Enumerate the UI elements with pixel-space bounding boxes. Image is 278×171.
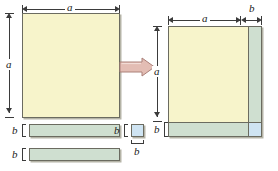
- dim-tick-left-b-cap: [164, 122, 165, 137]
- dim-tick-rect1-bottom: [22, 136, 26, 137]
- arrowhead-down: [6, 108, 12, 113]
- dim-tick-left-a-top: [153, 26, 162, 27]
- dim-label-left-a-right: a: [152, 66, 162, 77]
- square-b-by-b: [131, 124, 144, 137]
- dim-label-top-b-right: b: [249, 3, 255, 14]
- dim-tick-rect1-top: [22, 124, 26, 125]
- region-ab-bottom: [168, 122, 249, 137]
- dim-label-rect2-b: b: [12, 149, 18, 160]
- dim-label-top-a-right: a: [200, 13, 210, 24]
- dim-tick-rect2-top: [22, 148, 26, 149]
- figure-canvas: a a b b b b: [0, 0, 278, 171]
- square-a-by-a: [22, 13, 120, 118]
- dim-tick-b-end: [261, 16, 262, 25]
- dim-tick-small-bottom: [124, 136, 128, 137]
- dim-tick-small-top: [124, 124, 128, 125]
- dim-label-left-b-right: b: [154, 124, 160, 135]
- dim-label-small-bottom-b: b: [134, 146, 140, 157]
- arrowhead-left: [241, 17, 246, 23]
- dim-tick-a-start: [168, 16, 169, 25]
- rect-a-by-b-2: [29, 148, 120, 161]
- dim-tick-bottom: [5, 117, 14, 118]
- dim-tick-rect2-bottom: [22, 160, 26, 161]
- dim-tick-left-a-bottom: [153, 121, 162, 122]
- dim-label-top-a-left: a: [65, 2, 75, 13]
- dim-tick-top: [5, 13, 14, 14]
- dim-label-small-left-b: b: [114, 125, 120, 136]
- dim-tick-small-br: [143, 140, 144, 144]
- dim-label-left-a: a: [4, 59, 14, 70]
- dim-tick-small-bl: [131, 140, 132, 144]
- region-ab-right: [248, 26, 262, 123]
- arrowhead-down: [154, 112, 160, 117]
- region-a-squared: [168, 26, 249, 123]
- right-arrow-icon: [119, 57, 156, 77]
- dim-label-rect1-b: b: [12, 125, 18, 136]
- region-b-squared: [248, 122, 262, 137]
- rect-a-by-b-1: [29, 124, 120, 137]
